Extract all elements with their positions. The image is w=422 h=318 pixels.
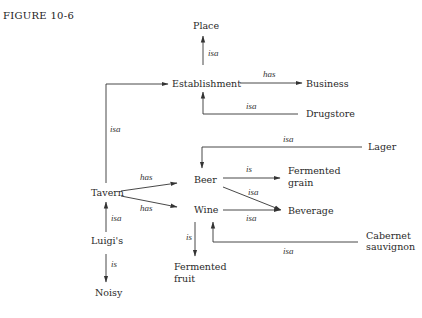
edge-label-isa: isa <box>246 213 257 223</box>
node-establishment: Establishment <box>172 78 241 89</box>
node-fermented-fruit-line2: fruit <box>174 273 195 284</box>
edge-label-isa: isa <box>208 48 219 58</box>
edge-label-isa: isa <box>283 134 294 144</box>
edge-label-isa: isa <box>110 124 121 134</box>
node-business: Business <box>306 78 349 89</box>
edge-label-has: has <box>140 203 153 213</box>
node-tavern: Tavern <box>91 187 124 198</box>
edge-label-isa: isa <box>283 246 294 256</box>
edge-label-isa: isa <box>248 187 259 197</box>
edge-label-is: is <box>111 259 118 269</box>
edge-cabernet-wine <box>213 222 358 242</box>
node-place: Place <box>193 20 219 31</box>
node-fermented-fruit-line1: Fermented <box>174 261 227 272</box>
semantic-network-diagram: FIGURE 10-6 Place isa Establishment has … <box>0 0 422 318</box>
edge-label-is: is <box>186 232 193 242</box>
node-cabernet-line2: sauvignon <box>366 241 415 252</box>
node-fermented-grain-line2: grain <box>288 177 313 188</box>
edge-label-isa: isa <box>111 213 122 223</box>
edge-label-has: has <box>263 69 276 79</box>
edge-label-is: is <box>246 164 253 174</box>
node-lager: Lager <box>368 141 397 152</box>
node-fermented-grain-line1: Fermented <box>288 165 341 176</box>
node-beer: Beer <box>194 174 217 185</box>
edge-tavern-beer <box>121 183 177 191</box>
node-beverage: Beverage <box>288 205 334 216</box>
node-wine: Wine <box>194 204 219 215</box>
figure-label: FIGURE 10-6 <box>3 10 74 21</box>
edge-label-has: has <box>140 172 153 182</box>
node-noisy: Noisy <box>95 287 123 298</box>
node-luigis: Luigi's <box>91 235 123 246</box>
node-cabernet-line1: Cabernet <box>366 230 411 241</box>
edge-label-isa: isa <box>246 101 257 111</box>
node-drugstore: Drugstore <box>306 108 355 119</box>
